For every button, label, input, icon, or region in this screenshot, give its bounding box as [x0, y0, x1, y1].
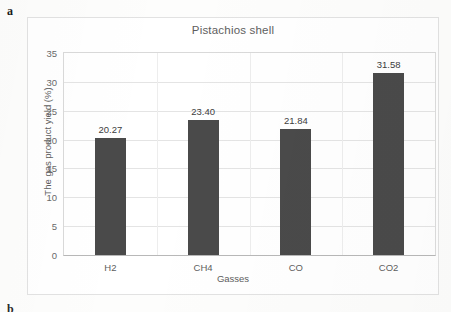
panel-label-b: b: [7, 303, 14, 312]
panel-label-a: a: [7, 5, 13, 17]
bar-co2[interactable]: 31.58CO2: [373, 73, 404, 255]
x-tick-label: CH4: [194, 262, 213, 273]
x-tick-label: H2: [104, 262, 116, 273]
chart-title: Pistachios shell: [28, 24, 438, 36]
y-tick-label: 20: [46, 134, 57, 145]
y-tick-label: 35: [46, 48, 57, 59]
bar-value-label: 31.58: [377, 59, 401, 70]
bar-value-label: 20.27: [98, 124, 122, 135]
gridline-vertical: [250, 53, 251, 255]
y-tick-label: 15: [46, 163, 57, 174]
x-axis-title: Gasses: [28, 273, 438, 284]
y-tick-label: 0: [52, 250, 57, 261]
bar-ch4[interactable]: 23.40CH4: [188, 120, 219, 255]
gridline-vertical: [157, 53, 158, 255]
bar-co[interactable]: 21.84CO: [280, 129, 311, 255]
plot-area: 3530252015105020.27H223.40CH421.84CO31.5…: [63, 52, 436, 256]
y-tick-label: 5: [52, 221, 57, 232]
y-tick-label: 10: [46, 192, 57, 203]
gridline-vertical: [342, 53, 343, 255]
x-tick-label: CO: [289, 262, 303, 273]
y-tick-label: 25: [46, 105, 57, 116]
bar-h2[interactable]: 20.27H2: [95, 138, 126, 255]
chart-container: Pistachios shell The gas product yield (…: [27, 17, 439, 295]
bar-value-label: 23.40: [191, 106, 215, 117]
x-tick-label: CO2: [379, 262, 399, 273]
bar-value-label: 21.84: [284, 115, 308, 126]
y-tick-label: 30: [46, 76, 57, 87]
